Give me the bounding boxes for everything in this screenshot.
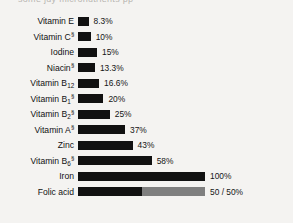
bar-value-label: 13.3%: [100, 63, 124, 73]
chart-row: Vitamin A§37%: [0, 125, 293, 141]
bar-category-label: Niacin§: [47, 63, 74, 75]
bar: [78, 32, 91, 41]
bar: [78, 141, 133, 150]
footnote-marker: §: [71, 109, 74, 115]
bar-segment: [142, 187, 206, 196]
chart-row: Vitamin B1§20%: [0, 94, 293, 110]
bar-value-label: 20%: [108, 94, 125, 104]
clipped-page-header: some juy micronutrients pp: [18, 0, 276, 9]
bar-category-label: Iodine: [51, 47, 74, 58]
footnote-marker: §: [71, 124, 74, 130]
bar: [78, 79, 99, 88]
category-subscript: 12: [67, 82, 74, 89]
bar-value-label: 43%: [138, 140, 155, 150]
bar-category-label: Vitamin B6§: [31, 156, 74, 168]
bar-value-label: 25%: [115, 109, 132, 119]
chart-row: Vitamin C§10%: [0, 32, 293, 48]
chart-row: Vitamin E8.3%: [0, 16, 293, 32]
bar-value-label: 15%: [102, 47, 119, 57]
chart-row: Vitamin B2§25%: [0, 109, 293, 125]
bar-category-label: Folic acid: [38, 187, 74, 198]
micronutrient-bar-chart: Vitamin E8.3%Vitamin C§10%Iodine15%Niaci…: [0, 16, 293, 202]
chart-row: Vitamin B6§58%: [0, 156, 293, 172]
chart-row: Iodine15%: [0, 47, 293, 63]
bar: [78, 172, 205, 181]
bar: [78, 17, 89, 26]
bar-value-label: 37%: [130, 125, 147, 135]
bar: [78, 48, 97, 57]
bar-segment: [78, 63, 95, 72]
bar-value-label: 50 / 50%: [210, 187, 243, 197]
chart-row: Iron100%: [0, 171, 293, 187]
footnote-marker: §: [71, 62, 74, 68]
bar: [78, 94, 103, 103]
chart-row: Folic acid50 / 50%: [0, 187, 293, 203]
footnote-marker: §: [71, 93, 74, 99]
bar-segment: [78, 94, 103, 103]
bar-category-label: Vitamin B2§: [31, 109, 74, 121]
bar: [78, 187, 205, 196]
bar-segment: [78, 17, 89, 26]
bar-value-label: 58%: [157, 156, 174, 166]
bar-segment: [78, 32, 91, 41]
bar-category-label: Vitamin B12: [30, 78, 74, 89]
bar-segment: [78, 156, 152, 165]
bar-segment: [78, 187, 142, 196]
bar-category-label: Vitamin A§: [35, 125, 75, 137]
bar: [78, 110, 110, 119]
bar-category-label: Vitamin C§: [34, 32, 74, 44]
bar-segment: [78, 141, 133, 150]
chart-row: Niacin§13.3%: [0, 63, 293, 79]
bar: [78, 63, 95, 72]
bar-value-label: 16.6%: [104, 78, 128, 88]
bar-segment: [78, 125, 125, 134]
bar-value-label: 8.3%: [94, 16, 113, 26]
bar-segment: [78, 79, 99, 88]
chart-row: Vitamin B1216.6%: [0, 78, 293, 94]
bar-value-label: 10%: [96, 32, 113, 42]
bar-value-label: 100%: [210, 171, 231, 181]
bar-segment: [78, 172, 205, 181]
chart-row: Zinc43%: [0, 140, 293, 156]
bar-category-label: Vitamin E: [37, 16, 74, 27]
footnote-marker: §: [71, 155, 74, 161]
bar: [78, 156, 152, 165]
bar-category-label: Zinc: [58, 140, 74, 151]
bar-category-label: Iron: [59, 171, 74, 182]
bar-category-label: Vitamin B1§: [31, 94, 74, 106]
bar-segment: [78, 48, 97, 57]
bar: [78, 125, 125, 134]
clipped-header-text: some juy micronutrients pp: [18, 0, 276, 4]
bar-segment: [78, 110, 110, 119]
footnote-marker: §: [71, 31, 74, 37]
